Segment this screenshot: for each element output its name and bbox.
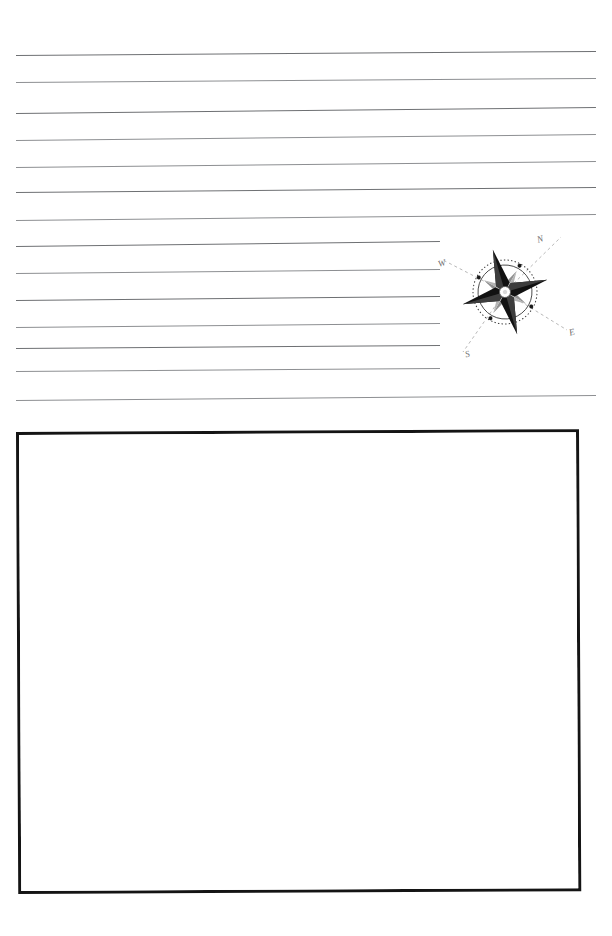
drawing-box[interactable] <box>16 429 581 894</box>
rule-line <box>16 323 440 328</box>
rule-line <box>16 187 596 193</box>
rule-line <box>16 368 440 372</box>
worksheet-page: N W E S <box>0 0 612 936</box>
rule-line <box>16 395 596 401</box>
rule-line <box>16 269 440 274</box>
rule-line <box>16 345 440 349</box>
rule-line <box>16 107 596 114</box>
rule-line <box>16 241 440 247</box>
rule-line <box>16 214 596 221</box>
rule-line <box>16 78 596 83</box>
rule-line <box>16 134 596 141</box>
rule-line <box>16 296 440 301</box>
compass-rose: N W E S <box>432 222 592 372</box>
drawing-box-canvas[interactable] <box>19 432 578 891</box>
rule-line <box>16 51 596 56</box>
rule-line <box>16 161 596 168</box>
compass-rose-graphic <box>432 222 592 372</box>
compass-label-west: W <box>437 257 447 269</box>
